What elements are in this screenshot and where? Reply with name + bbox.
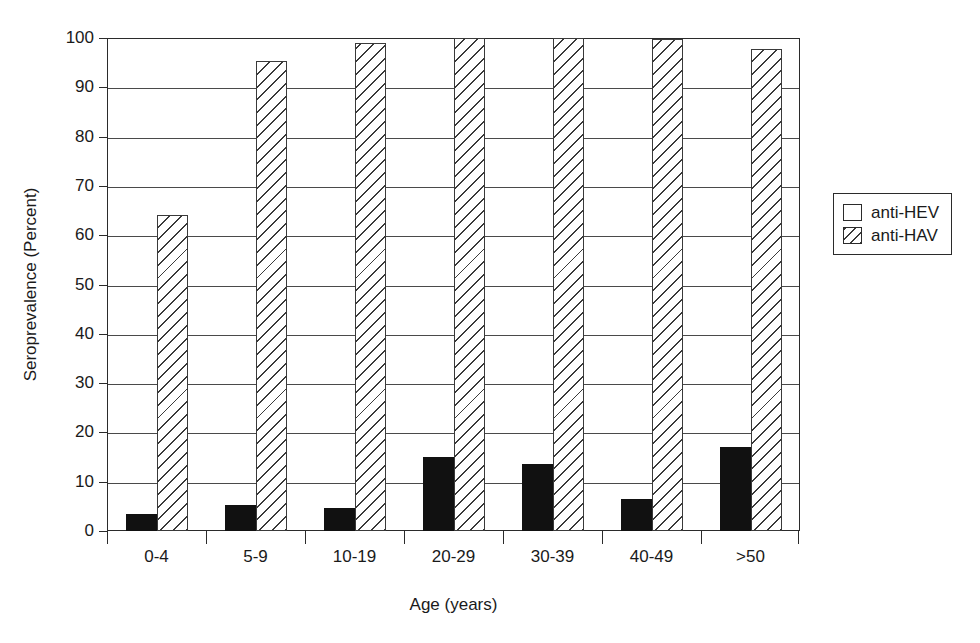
- x-axis-tick-mark: [305, 531, 306, 544]
- y-axis-tick-label: 70: [50, 176, 94, 196]
- x-axis-tick-label: 40-49: [630, 547, 673, 567]
- bar-anti-hav-04: [157, 215, 188, 531]
- y-axis-tick-label: 90: [50, 77, 94, 97]
- y-axis-tick-label: 80: [50, 127, 94, 147]
- y-axis-ticks: 0102030405060708090100: [0, 0, 107, 643]
- bar-anti-hev-50: [720, 447, 751, 531]
- bar-group: [404, 38, 503, 531]
- bar-anti-hav-50: [751, 49, 782, 531]
- y-axis-tick-label: 20: [50, 422, 94, 442]
- bar-anti-hav-4049: [652, 39, 683, 531]
- hatched-square-icon: [843, 227, 862, 244]
- x-axis-tick-label: 30-39: [531, 547, 574, 567]
- y-axis-tick-label: 100: [50, 28, 94, 48]
- x-axis-tick-label: 10-19: [333, 547, 376, 567]
- y-axis-tick-mark: [99, 186, 107, 187]
- y-axis-tick-mark: [99, 334, 107, 335]
- bar-anti-hev-4049: [621, 499, 652, 531]
- y-axis-tick-mark: [99, 38, 107, 39]
- y-axis-tick-mark: [99, 285, 107, 286]
- x-axis-tick-label: 5-9: [243, 547, 268, 567]
- bar-anti-hev-1019: [324, 508, 355, 531]
- x-axis-tick-mark: [206, 531, 207, 544]
- bar-anti-hev-2029: [423, 457, 454, 531]
- x-axis-tick-mark: [503, 531, 504, 544]
- bar-anti-hav-2029: [454, 38, 485, 531]
- chart-legend: anti-HEV anti-HAV: [833, 193, 952, 255]
- x-axis-tick-mark: [602, 531, 603, 544]
- x-axis-tick-mark: [701, 531, 702, 544]
- y-axis-tick-label: 40: [50, 324, 94, 344]
- y-axis-tick-label: 30: [50, 373, 94, 393]
- legend-item-anti-hav: anti-HAV: [843, 224, 939, 247]
- y-axis-tick-mark: [99, 383, 107, 384]
- bar-group: [107, 38, 206, 531]
- legend-label-anti-hev: anti-HEV: [871, 203, 939, 223]
- bar-group: [503, 38, 602, 531]
- x-axis-tick-mark: [798, 531, 799, 544]
- y-axis-tick-mark: [99, 531, 107, 532]
- bar-group: [701, 38, 800, 531]
- x-axis-tick-label: >50: [736, 547, 765, 567]
- bar-anti-hav-3039: [553, 38, 584, 531]
- x-axis-tick-label: 20-29: [432, 547, 475, 567]
- y-axis-tick-label: 10: [50, 472, 94, 492]
- x-axis-tick-mark: [107, 531, 108, 544]
- y-axis-tick-mark: [99, 432, 107, 433]
- y-axis-tick-mark: [99, 87, 107, 88]
- empty-square-icon: [843, 204, 862, 221]
- bar-anti-hev-3039: [522, 464, 553, 531]
- bar-anti-hev-59: [225, 505, 256, 531]
- bar-group: [305, 38, 404, 531]
- y-axis-tick-mark: [99, 482, 107, 483]
- legend-item-anti-hev: anti-HEV: [843, 201, 939, 224]
- bar-group: [602, 38, 701, 531]
- bar-anti-hev-04: [126, 514, 157, 531]
- bar-group: [206, 38, 305, 531]
- bar-anti-hav-1019: [355, 43, 386, 531]
- x-axis-tick-labels: 0-45-910-1920-2930-3940-49>50: [107, 547, 800, 577]
- y-axis-tick-label: 50: [50, 275, 94, 295]
- y-axis-tick-mark: [99, 137, 107, 138]
- chart-figure: Seroprevalence (Percent) 010203040506070…: [0, 0, 980, 643]
- x-axis-tick-mark: [404, 531, 405, 544]
- y-axis-tick-mark: [99, 235, 107, 236]
- y-axis-tick-label: 60: [50, 225, 94, 245]
- y-axis-tick-label: 0: [50, 521, 94, 541]
- x-axis-title: Age (years): [107, 595, 800, 615]
- bar-anti-hav-59: [256, 61, 287, 531]
- bars-layer: [107, 38, 800, 531]
- x-axis-ticks: [107, 531, 800, 547]
- x-axis-tick-label: 0-4: [144, 547, 169, 567]
- legend-label-anti-hav: anti-HAV: [871, 226, 938, 246]
